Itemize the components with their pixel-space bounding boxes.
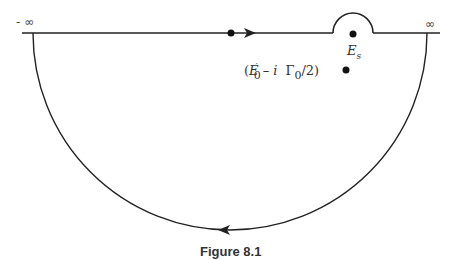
indentation-arc	[333, 13, 373, 33]
contour-diagram: - ∞ ∞ Es (E′0– iΓ0/2) Figure 8.1	[0, 0, 456, 260]
threshold-dot	[350, 31, 357, 38]
pole-label: (E′0– iΓ0/2)	[244, 62, 319, 82]
pos-infinity-label: ∞	[425, 17, 435, 31]
lower-semicircle	[33, 33, 427, 230]
pole-dot	[343, 67, 350, 74]
figure-caption: Figure 8.1	[200, 244, 261, 259]
neg-infinity-label: - ∞	[16, 15, 34, 29]
origin-dot	[228, 30, 235, 37]
threshold-label: Es	[346, 43, 362, 61]
